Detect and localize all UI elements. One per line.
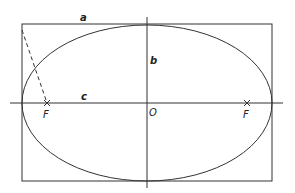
focal-distance-dashed-line [22,30,47,103]
label-c: c [81,91,87,102]
ellipse-diagram: a b c O F F [0,0,295,193]
label-a: a [80,12,87,23]
label-focus-left: F [43,109,49,120]
label-b: b [150,55,157,66]
label-origin: O [149,107,157,118]
label-focus-right: F [243,109,249,120]
